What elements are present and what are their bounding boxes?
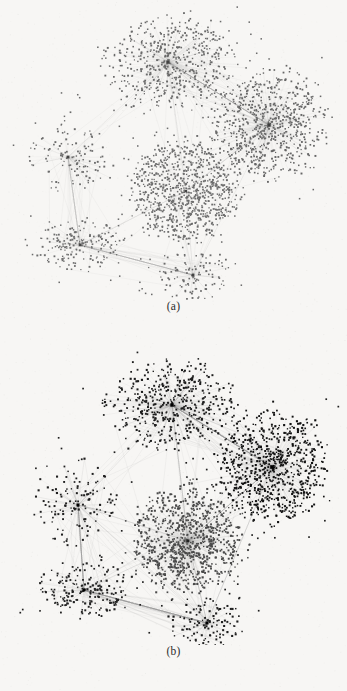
- panel-b-caption: (b): [0, 645, 347, 657]
- network-figure: (a) (b): [0, 0, 347, 691]
- network-graph-b: [0, 345, 347, 645]
- panel-a: (a): [0, 0, 347, 345]
- panel-b: (b): [0, 345, 347, 691]
- panel-b-canvas-wrap: [0, 345, 347, 645]
- panel-a-canvas-wrap: [0, 0, 347, 300]
- network-graph-a: [0, 0, 347, 300]
- panel-a-caption: (a): [0, 300, 347, 312]
